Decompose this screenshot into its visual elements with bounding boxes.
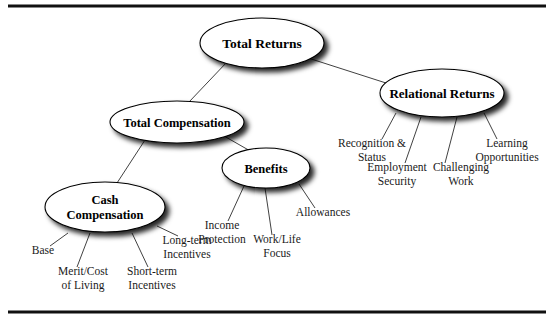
leaf-label-employment-security: Security: [378, 175, 417, 188]
node-ellipses: Total ReturnsTotal CompensationRelationa…: [45, 18, 504, 232]
leaf-label-allowances: Allowances: [296, 206, 351, 218]
node-benefits[interactable]: Benefits: [222, 148, 310, 188]
leaf-label-income-protection: Protection: [198, 233, 246, 245]
total-returns-diagram: Total ReturnsTotal CompensationRelationa…: [0, 0, 560, 319]
leaf-label-base: Base: [32, 244, 54, 256]
edge-total-compensation-cash-compensation: [117, 140, 145, 183]
leaf-line-learning-opportunities: [484, 113, 497, 139]
node-label-cash-compensation: Cash: [91, 193, 118, 207]
leaf-line-recognition-status: [382, 113, 396, 139]
leaf-label-long-term-incentives: Incentives: [163, 248, 211, 260]
leaf-label-employment-security: Employment: [367, 161, 427, 174]
leaf-income-protection[interactable]: IncomeProtection: [198, 219, 246, 245]
leaf-line-short-term-incentives: [132, 233, 148, 267]
leaf-learning-opportunities[interactable]: LearningOpportunities: [475, 137, 539, 164]
leaf-line-allowances: [299, 184, 315, 208]
node-label-relational-returns: Relational Returns: [389, 86, 494, 101]
leaf-base[interactable]: Base: [32, 244, 54, 256]
edge-total-returns-relational-returns: [305, 57, 386, 83]
leaf-line-income-protection: [228, 186, 244, 221]
node-relational-returns[interactable]: Relational Returns: [380, 69, 504, 117]
leaf-short-term-incentives[interactable]: Short-termIncentives: [127, 265, 177, 291]
leaf-line-merit-cost-of-living: [77, 233, 90, 267]
leaf-label-income-protection: Income: [205, 219, 239, 231]
leaf-label-recognition-status: Recognition &: [338, 137, 406, 150]
node-cash-compensation[interactable]: CashCompensation: [45, 182, 165, 232]
leaf-label-merit-cost-of-living: of Living: [61, 279, 104, 292]
node-total-compensation[interactable]: Total Compensation: [110, 101, 244, 143]
leaf-allowances[interactable]: Allowances: [296, 206, 351, 218]
leaf-label-learning-opportunities: Learning: [486, 137, 528, 150]
leaf-line-challenging-work: [445, 117, 457, 163]
leaf-line-work-life-focus: [265, 188, 272, 235]
diagram-canvas: Total ReturnsTotal CompensationRelationa…: [0, 0, 560, 319]
leaf-label-work-life-focus: Focus: [263, 247, 291, 259]
leaf-label-short-term-incentives: Short-term: [127, 265, 177, 277]
leaf-label-challenging-work: Work: [448, 175, 474, 187]
node-label-total-returns: Total Returns: [222, 36, 301, 51]
leaf-work-life-focus[interactable]: Work/LifeFocus: [253, 233, 301, 259]
leaf-recognition-status[interactable]: Recognition &Status: [338, 137, 406, 163]
leaf-label-learning-opportunities: Opportunities: [475, 151, 539, 164]
leaf-employment-security[interactable]: EmploymentSecurity: [367, 161, 427, 188]
leaf-label-short-term-incentives: Incentives: [128, 279, 176, 291]
node-label-benefits: Benefits: [244, 162, 287, 176]
node-label-total-compensation: Total Compensation: [123, 116, 231, 130]
leaf-label-work-life-focus: Work/Life: [253, 233, 301, 245]
edge-total-returns-total-compensation: [189, 62, 227, 102]
leaf-label-merit-cost-of-living: Merit/Cost: [58, 265, 109, 277]
leaf-merit-cost-of-living[interactable]: Merit/Costof Living: [58, 265, 109, 292]
leaf-challenging-work[interactable]: ChallengingWork: [433, 161, 489, 187]
leaf-line-employment-security: [405, 117, 421, 163]
node-label-cash-compensation: Compensation: [66, 208, 143, 222]
node-total-returns[interactable]: Total Returns: [200, 18, 324, 68]
